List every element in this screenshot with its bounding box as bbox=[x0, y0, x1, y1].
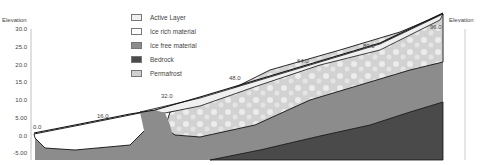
legend-item-permafrost: Permafrost bbox=[131, 69, 182, 78]
distance-label: 32.0 bbox=[161, 93, 173, 99]
legend-swatch bbox=[131, 28, 142, 35]
y-tick: 0.0 bbox=[3, 133, 27, 139]
legend-item-active-layer: Active Layer bbox=[131, 13, 186, 22]
legend-swatch bbox=[131, 14, 142, 21]
y-axis-label-right: Elevation bbox=[449, 17, 474, 23]
y-tick: 10.0 bbox=[3, 97, 27, 103]
y-tick: 30.0 bbox=[3, 26, 27, 32]
distance-label: 64.0 bbox=[297, 58, 309, 64]
y-tick: 5.00 bbox=[3, 115, 27, 121]
legend-item-ice-rich: Ice rich material bbox=[131, 27, 196, 36]
distance-label: 0.0 bbox=[33, 124, 41, 130]
cross-section-diagram bbox=[0, 0, 483, 165]
legend-swatch bbox=[131, 70, 142, 77]
distance-label: 80.0 bbox=[363, 43, 375, 49]
y-tick: 20.0 bbox=[3, 62, 27, 68]
legend-swatch bbox=[131, 56, 142, 63]
legend-item-ice-free: Ice free material bbox=[131, 41, 197, 50]
y-tick: 25.0 bbox=[3, 44, 27, 50]
distance-label: 48.0 bbox=[229, 75, 241, 81]
legend-item-bedrock: Bedrock bbox=[131, 55, 174, 64]
y-tick: 15.0 bbox=[3, 79, 27, 85]
distance-label: 16.0 bbox=[97, 113, 109, 119]
legend-swatch bbox=[131, 42, 142, 49]
y-axis-label-left: Elevation bbox=[2, 17, 27, 23]
distance-label: 96.0 bbox=[430, 24, 442, 30]
y-tick: -5.00 bbox=[3, 150, 27, 156]
